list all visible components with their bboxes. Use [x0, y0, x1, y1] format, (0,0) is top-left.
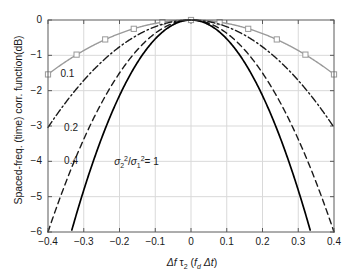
data-point-marker — [303, 52, 308, 57]
data-point-marker — [74, 52, 79, 57]
y-tick-label: −1 — [12, 49, 42, 60]
x-tick-label: −0.2 — [100, 236, 140, 247]
y-tick-label: −6 — [12, 226, 42, 237]
x-tick-label: 0.1 — [207, 236, 247, 247]
sigma-equals: = 1 — [145, 157, 159, 168]
y-tick-label: −2 — [12, 85, 42, 96]
x-tick-label: −0.1 — [135, 236, 175, 247]
x-axis-label-deltaf: Δf — [167, 256, 177, 268]
x-axis-label: Δf τ2 (fd Δt) — [48, 256, 336, 270]
sigma-sub-1: 1 — [137, 163, 141, 170]
x-tick-label: 0.4 — [314, 236, 348, 247]
data-point-marker — [246, 26, 251, 31]
y-tick-label: 0 — [12, 14, 42, 25]
y-tick-label: −3 — [12, 120, 42, 131]
x-tick-label: 0 — [171, 236, 211, 247]
data-point-marker — [274, 37, 279, 42]
curve-annotation-0.2: 0.2 — [64, 122, 78, 133]
curve-annotation-sigma-ratio: σ22/σ12= 1 — [114, 155, 159, 169]
sigma-sub-2: 2 — [120, 163, 124, 170]
x-tick-label: −0.3 — [64, 236, 104, 247]
data-point-marker — [131, 26, 136, 31]
curve-annotation-0.1: 0.1 — [61, 68, 75, 79]
x-tick-label: 0.3 — [278, 236, 318, 247]
curve-annotation-0.4: 0.4 — [64, 155, 78, 166]
y-tick-label: −5 — [12, 191, 42, 202]
data-point-marker — [103, 37, 108, 42]
y-tick-label: −4 — [12, 155, 42, 166]
chart-figure: Spaced-freq. (time) corr. function(dB) Δ… — [0, 0, 348, 280]
x-axis-label-paren-close: ) — [214, 256, 218, 268]
x-tick-label: 0.2 — [243, 236, 283, 247]
x-axis-label-deltat: Δt — [204, 256, 214, 268]
x-tick-label: −0.4 — [28, 236, 68, 247]
